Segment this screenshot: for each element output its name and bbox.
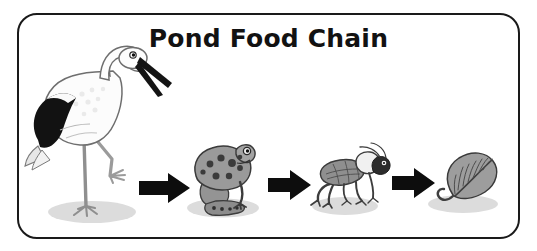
diagram-canvas [0, 0, 537, 251]
food-chain-diagram [0, 0, 537, 251]
arrow-stork-frog [139, 173, 190, 203]
cricket-shadow [312, 197, 378, 215]
pond-food-chain-poster: Pond Food Chain [0, 0, 537, 251]
stork-shadow [48, 201, 136, 223]
arrow-cricket-leaf [392, 168, 435, 198]
arrow-frog-cricket [268, 170, 311, 200]
leaf-icon [438, 153, 497, 200]
ground-shadows [48, 195, 498, 223]
